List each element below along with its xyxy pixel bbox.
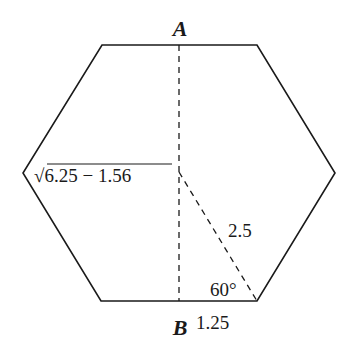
half-base-label: 1.25 — [196, 312, 229, 333]
hypotenuse-label: 2.5 — [228, 220, 252, 241]
height-label: √6.25 − 1.56 — [34, 165, 131, 186]
hexagon-diagram: A B √6.25 − 1.56 2.5 60° 1.25 — [0, 0, 345, 350]
point-label-a: A — [171, 16, 188, 41]
point-label-b: B — [172, 315, 188, 340]
angle-label: 60° — [210, 279, 237, 300]
